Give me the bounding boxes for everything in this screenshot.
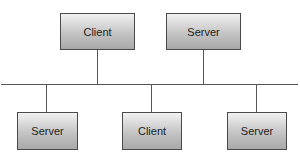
connector-bottom-server-right xyxy=(256,84,257,112)
connector-top-client xyxy=(97,49,98,84)
node-label: Server xyxy=(187,26,219,38)
node-bottom-server-left: Server xyxy=(17,112,78,150)
node-label: Server xyxy=(241,125,273,137)
node-bottom-server-right: Server xyxy=(227,112,287,150)
connector-top-server xyxy=(203,49,204,84)
node-label: Client xyxy=(138,125,166,137)
connector-bottom-server-left xyxy=(46,84,47,112)
connector-bottom-client xyxy=(151,84,152,112)
node-label: Client xyxy=(83,26,111,38)
node-bottom-client: Client xyxy=(122,112,182,150)
node-top-server: Server xyxy=(166,13,241,50)
node-label: Server xyxy=(31,125,63,137)
node-top-client: Client xyxy=(60,13,135,50)
